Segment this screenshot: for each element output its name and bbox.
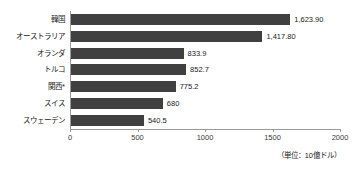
x-tick-label: 0: [68, 133, 72, 142]
bar-value-label: 852.7: [190, 65, 209, 74]
bar: [71, 115, 144, 126]
bar-row: 775.2: [71, 81, 340, 92]
category-label: 関西*: [0, 82, 68, 91]
x-tick-mark: [273, 129, 274, 132]
bar-row: 833.9: [71, 48, 340, 59]
bar-chart: 韓国 オーストラリア オランダ トルコ 関西* スイス スウェーデン 1,623…: [0, 0, 353, 170]
bar: [71, 48, 184, 59]
category-label: オーストラリア: [0, 32, 68, 41]
bar-value-label: 775.2: [180, 82, 199, 91]
bar-value-label: 540.5: [148, 116, 167, 125]
category-label: 韓国: [0, 15, 68, 24]
x-tick-mark: [205, 129, 206, 132]
bar-row: 1,623.90: [71, 14, 340, 25]
plot-area: 1,623.90 1,417.80 833.9 852.7 775.2 680: [70, 11, 340, 129]
bar-row: 1,417.80: [71, 31, 340, 42]
x-tick-mark: [138, 129, 139, 132]
x-tick-label: 1000: [197, 133, 214, 142]
category-label: スウェーデン: [0, 116, 68, 125]
bar-row: 852.7: [71, 64, 340, 75]
bar: [71, 31, 262, 42]
x-tick-label: 2000: [332, 133, 349, 142]
bar-row: 540.5: [71, 115, 340, 126]
bar-row: 680: [71, 98, 340, 109]
x-tick-mark: [340, 129, 341, 132]
x-tick-label: 1500: [264, 133, 281, 142]
unit-annotation: （単位：10億ドル）: [277, 151, 341, 160]
category-label: トルコ: [0, 65, 68, 74]
category-label: スイス: [0, 99, 68, 108]
category-axis-labels: 韓国 オーストラリア オランダ トルコ 関西* スイス スウェーデン: [0, 11, 68, 129]
x-tick-label: 500: [131, 133, 144, 142]
bar: [71, 98, 163, 109]
bar: [71, 14, 290, 25]
bar: [71, 81, 176, 92]
bar-value-label: 1,623.90: [294, 15, 323, 24]
x-tick-mark: [70, 129, 71, 132]
bar-value-label: 833.9: [188, 49, 207, 58]
bar-series: 1,623.90 1,417.80 833.9 852.7 775.2 680: [71, 11, 340, 129]
bar: [71, 64, 186, 75]
bar-value-label: 1,417.80: [266, 32, 295, 41]
x-axis-tick-labels: 0 500 1000 1500 2000: [70, 133, 340, 144]
category-label: オランダ: [0, 49, 68, 58]
bar-value-label: 680: [167, 99, 180, 108]
